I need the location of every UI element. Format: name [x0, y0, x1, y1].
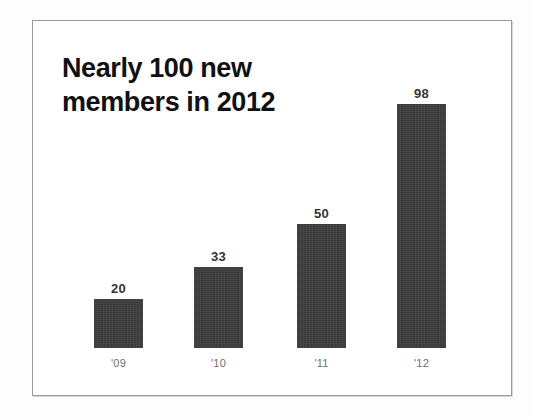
- bar-value-label-2009: 20: [94, 281, 143, 296]
- slide-canvas: Nearly 100 new members in 2012 20 '09 33…: [0, 0, 533, 418]
- bar-rect-2012[interactable]: [397, 104, 446, 348]
- axis-category-label-2009: '09: [84, 357, 153, 369]
- bar-group-2012[interactable]: 98 '12: [397, 104, 446, 348]
- bar-rect-2010[interactable]: [194, 267, 243, 348]
- bar-value-label-2011: 50: [297, 206, 346, 221]
- bar-rect-2009[interactable]: [94, 299, 143, 348]
- bar-chart-plot-area: 20 '09 33 '10 50 '11 98 '12: [32, 20, 512, 396]
- axis-category-label-2010: '10: [184, 357, 253, 369]
- bar-group-2010[interactable]: 33 '10: [194, 267, 243, 348]
- bar-value-label-2010: 33: [194, 249, 243, 264]
- bar-group-2009[interactable]: 20 '09: [94, 299, 143, 348]
- bar-value-label-2012: 98: [397, 86, 446, 101]
- axis-category-label-2012: '12: [387, 357, 456, 369]
- bar-rect-2011[interactable]: [297, 224, 346, 348]
- axis-category-label-2011: '11: [287, 357, 356, 369]
- bar-group-2011[interactable]: 50 '11: [297, 224, 346, 348]
